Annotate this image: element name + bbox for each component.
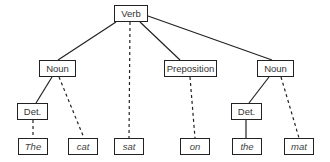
node-preposition: Preposition	[164, 60, 217, 77]
edge-preposition-on	[190, 77, 195, 138]
word-the: The	[18, 138, 48, 155]
word-sat: sat	[114, 138, 144, 155]
edge-noun-cat	[59, 77, 84, 138]
word-the-2: the	[232, 138, 262, 155]
edge-noun-det-right	[249, 77, 269, 103]
edge-noun-mat	[281, 77, 299, 138]
word-mat: mat	[284, 138, 314, 155]
tree-edges	[0, 0, 330, 162]
word-cat: cat	[68, 138, 98, 155]
node-noun-left: Noun	[39, 60, 76, 77]
word-on: on	[180, 138, 210, 155]
edge-verb-sat	[129, 22, 130, 138]
edge-verb-preposition	[140, 22, 180, 60]
node-noun-right: Noun	[257, 60, 294, 77]
node-det-right: Det.	[231, 103, 262, 120]
edge-noun-det-left	[36, 77, 52, 103]
node-verb: Verb	[114, 5, 148, 22]
node-det-left: Det.	[17, 103, 48, 120]
edge-verb-noun-right	[148, 16, 272, 60]
edge-verb-noun-left	[58, 22, 116, 60]
